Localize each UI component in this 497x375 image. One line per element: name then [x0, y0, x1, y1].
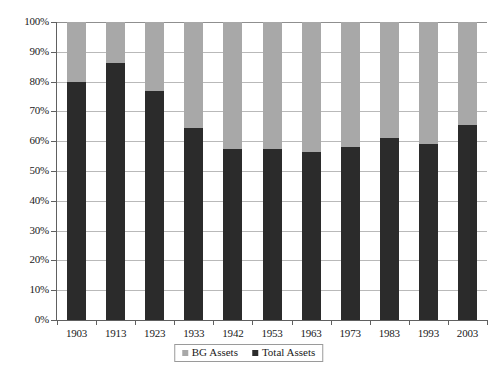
- bar-segment-bg-assets[interactable]: [419, 22, 438, 144]
- x-tick-mark: [409, 320, 410, 325]
- legend-item[interactable]: BG Assets: [182, 346, 238, 359]
- y-tick-label: 20%: [3, 254, 49, 265]
- bar-segment-total-assets[interactable]: [67, 82, 86, 320]
- x-tick-label: 1923: [135, 327, 174, 339]
- x-tick-label: 1953: [252, 327, 291, 339]
- x-tick-label: 2003: [448, 327, 487, 339]
- stacked-bar-chart: 0%10%20%30%40%50%60%70%80%90%100% 190319…: [0, 0, 497, 375]
- bar-group[interactable]: [223, 22, 242, 320]
- bar-segment-total-assets[interactable]: [302, 152, 321, 320]
- x-axis-line: [57, 320, 488, 321]
- chart-legend: BG AssetsTotal Assets: [174, 344, 323, 362]
- bar-segment-total-assets[interactable]: [106, 63, 125, 320]
- x-tick-mark: [96, 320, 97, 325]
- bar-segment-bg-assets[interactable]: [341, 22, 360, 147]
- y-tick-label: 80%: [3, 76, 49, 87]
- bar-group[interactable]: [263, 22, 282, 320]
- x-tick-mark: [370, 320, 371, 325]
- bar-group[interactable]: [380, 22, 399, 320]
- bar-group[interactable]: [184, 22, 203, 320]
- legend-swatch-icon: [182, 350, 188, 356]
- bar-group[interactable]: [458, 22, 477, 320]
- x-tick-label: 1913: [96, 327, 135, 339]
- bar-segment-total-assets[interactable]: [145, 91, 164, 320]
- y-tick-mark: [51, 231, 56, 232]
- y-tick-label: 90%: [3, 46, 49, 57]
- x-tick-mark: [252, 320, 253, 325]
- y-tick-label: 60%: [3, 135, 49, 146]
- y-tick-label: 0%: [3, 314, 49, 325]
- bar-segment-total-assets[interactable]: [184, 128, 203, 320]
- bar-group[interactable]: [106, 22, 125, 320]
- x-tick-label: 1933: [174, 327, 213, 339]
- x-tick-mark: [487, 320, 488, 325]
- bar-segment-total-assets[interactable]: [341, 147, 360, 320]
- y-tick-mark: [51, 320, 56, 321]
- x-tick-label: 1963: [292, 327, 331, 339]
- x-tick-mark: [448, 320, 449, 325]
- y-tick-mark: [51, 22, 56, 23]
- bar-group[interactable]: [302, 22, 321, 320]
- x-tick-mark: [135, 320, 136, 325]
- y-tick-mark: [51, 171, 56, 172]
- legend-swatch-icon: [252, 350, 258, 356]
- bar-segment-bg-assets[interactable]: [263, 22, 282, 149]
- bar-segment-bg-assets[interactable]: [106, 22, 125, 63]
- y-tick-mark: [51, 260, 56, 261]
- bar-segment-bg-assets[interactable]: [380, 22, 399, 138]
- x-tick-label: 1973: [331, 327, 370, 339]
- x-tick-label: 1993: [409, 327, 448, 339]
- x-tick-mark: [213, 320, 214, 325]
- bar-segment-total-assets[interactable]: [263, 149, 282, 320]
- bar-segment-bg-assets[interactable]: [145, 22, 164, 91]
- bar-group[interactable]: [419, 22, 438, 320]
- y-tick-mark: [51, 290, 56, 291]
- y-tick-label: 100%: [3, 16, 49, 27]
- bar-segment-total-assets[interactable]: [419, 144, 438, 320]
- bar-segment-bg-assets[interactable]: [223, 22, 242, 149]
- bar-segment-bg-assets[interactable]: [67, 22, 86, 82]
- legend-label: BG Assets: [192, 346, 238, 359]
- y-axis: 0%10%20%30%40%50%60%70%80%90%100%: [0, 0, 49, 375]
- y-tick-label: 10%: [3, 284, 49, 295]
- bar-segment-total-assets[interactable]: [380, 138, 399, 320]
- bar-group[interactable]: [67, 22, 86, 320]
- bar-segment-bg-assets[interactable]: [458, 22, 477, 125]
- x-tick-mark: [174, 320, 175, 325]
- bar-group[interactable]: [341, 22, 360, 320]
- bar-segment-total-assets[interactable]: [223, 149, 242, 320]
- x-tick-mark: [57, 320, 58, 325]
- y-tick-label: 40%: [3, 195, 49, 206]
- plot-area: [57, 22, 487, 320]
- y-tick-mark: [51, 82, 56, 83]
- x-tick-label: 1983: [370, 327, 409, 339]
- legend-item[interactable]: Total Assets: [252, 346, 315, 359]
- bar-segment-bg-assets[interactable]: [302, 22, 321, 152]
- y-tick-label: 50%: [3, 165, 49, 176]
- x-tick-mark: [331, 320, 332, 325]
- bar-group[interactable]: [145, 22, 164, 320]
- bar-segment-total-assets[interactable]: [458, 125, 477, 320]
- y-tick-label: 30%: [3, 225, 49, 236]
- legend-label: Total Assets: [262, 346, 315, 359]
- bar-segment-bg-assets[interactable]: [184, 22, 203, 128]
- y-tick-mark: [51, 141, 56, 142]
- x-tick-mark: [292, 320, 293, 325]
- y-tick-mark: [51, 52, 56, 53]
- y-tick-label: 70%: [3, 105, 49, 116]
- y-tick-mark: [51, 111, 56, 112]
- y-tick-mark: [51, 201, 56, 202]
- x-tick-label: 1942: [213, 327, 252, 339]
- x-tick-label: 1903: [57, 327, 96, 339]
